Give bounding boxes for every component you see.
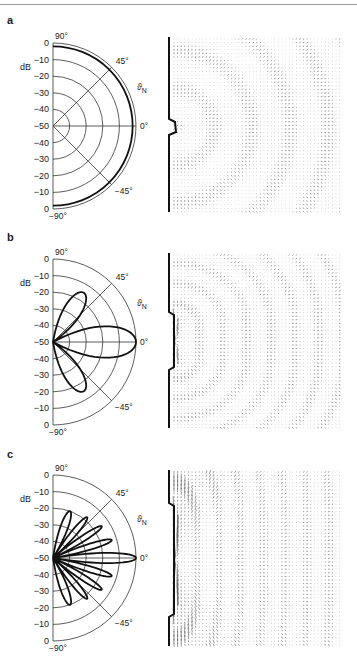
theta-n-label: ϑN (137, 514, 147, 526)
db-tick-label: −10 (34, 55, 49, 65)
vector-field (169, 253, 341, 429)
db-tick-label: −30 (34, 586, 49, 596)
panel-b: b 0−10−20−30−40−50−40−30−20−100dB90°45°0… (7, 231, 341, 437)
unit-label: dB (20, 494, 31, 504)
db-tick-label: 0 (44, 254, 49, 264)
panel-letter: b (7, 231, 14, 243)
db-tick-label: −40 (34, 104, 49, 114)
panel-letter: a (7, 14, 14, 26)
angle-label-minus90: −90° (49, 427, 67, 437)
field-arrows (173, 470, 340, 647)
db-tick-label: −20 (34, 171, 49, 181)
db-tick-label: −30 (34, 154, 49, 164)
db-tick-label: −40 (34, 570, 49, 580)
db-tick-label: −40 (34, 320, 49, 330)
angle-label-0: 0° (140, 121, 148, 131)
baffle-wall (169, 37, 176, 212)
db-tick-label: −20 (34, 287, 49, 297)
db-tick-label: 0 (44, 470, 49, 480)
db-tick-label: −30 (34, 520, 49, 530)
angle-label-90: 90° (55, 31, 68, 41)
angle-label-minus90: −90° (49, 211, 67, 221)
baffle-wall (169, 253, 174, 428)
panel-a: a 0−10−20−30−40−50−40−30−20−100dB90°45°0… (7, 14, 340, 221)
angle-label-minus45: −45° (115, 618, 133, 628)
db-tick-label: −30 (34, 370, 49, 380)
db-tick-label: −10 (34, 187, 49, 197)
vector-field (169, 37, 340, 212)
angle-label-45: 45° (116, 56, 129, 66)
db-tick-label: −20 (34, 387, 49, 397)
db-tick-label: −50 (34, 121, 49, 131)
vector-field (169, 470, 340, 647)
db-tick-label: −50 (34, 337, 49, 347)
polar-plot: 0−10−20−30−40−50−40−30−20−100dB90°45°0°−… (20, 247, 148, 437)
unit-label: dB (20, 62, 31, 72)
db-tick-label: −10 (34, 271, 49, 281)
db-tick-label: −20 (34, 71, 49, 81)
figure: a 0−10−20−30−40−50−40−30−20−100dB90°45°0… (0, 0, 357, 670)
panel-letter: c (7, 448, 13, 460)
theta-n-label: ϑN (137, 298, 147, 310)
polar-plot: 0−10−20−30−40−50−40−30−20−100dB90°45°0°−… (20, 463, 148, 653)
angle-label-45: 45° (116, 488, 129, 498)
angle-label-minus45: −45° (115, 186, 133, 196)
angle-label-minus45: −45° (115, 402, 133, 412)
db-tick-label: −40 (34, 354, 49, 364)
angle-label-90: 90° (55, 463, 68, 473)
db-tick-label: −30 (34, 304, 49, 314)
db-tick-label: 0 (44, 38, 49, 48)
angle-label-45: 45° (116, 272, 129, 282)
db-tick-label: −40 (34, 536, 49, 546)
field-arrows (173, 254, 340, 428)
angle-label-90: 90° (55, 247, 68, 257)
polar-axis-45deg (53, 67, 112, 126)
db-tick-label: −20 (34, 603, 49, 613)
angle-label-minus90: −90° (49, 643, 67, 653)
panel-c: c 0−10−20−30−40−50−40−30−20−100dB90°45°0… (7, 448, 340, 653)
db-tick-label: −10 (34, 487, 49, 497)
db-tick-label: −10 (34, 619, 49, 629)
theta-n-label: ϑN (137, 82, 147, 94)
field-arrows (173, 38, 340, 212)
db-tick-label: −10 (34, 403, 49, 413)
polar-plot: 0−10−20−30−40−50−40−30−20−100dB90°45°0°−… (20, 31, 148, 221)
db-tick-label: −20 (34, 503, 49, 513)
angle-label-0: 0° (140, 553, 148, 563)
db-tick-label: −30 (34, 88, 49, 98)
db-tick-label: −40 (34, 138, 49, 148)
unit-label: dB (20, 278, 31, 288)
polar-axis-minus45deg (53, 126, 112, 185)
angle-label-0: 0° (140, 337, 148, 347)
db-tick-label: −50 (34, 553, 49, 563)
